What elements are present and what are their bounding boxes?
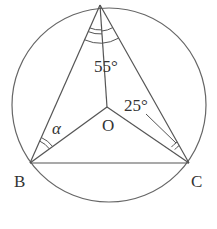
segment-ao [100,5,107,107]
apex-angle-label: 55° [94,57,118,76]
apex-full-arc [85,38,119,43]
alpha-arc-outer [41,138,52,147]
side-ac [100,5,189,163]
side-ab [30,5,100,163]
alpha-arc-inner [40,141,50,149]
angle-c-leader [146,114,176,143]
apex-double-arc-inner [90,28,102,30]
angle-c-arc-outer [171,142,177,147]
angle-c-arc-inner [175,146,179,150]
geometry-diagram: 55° 25° α O B C [0,0,217,229]
angle-c-label: 25° [124,96,148,115]
apex-double-arc-outer [88,32,102,34]
alpha-label: α [52,119,62,138]
point-o-label: O [102,116,114,135]
point-b-label: B [14,172,25,191]
apex-right-arc [102,28,113,31]
circumcircle [12,8,206,202]
segment-bo [30,107,107,163]
point-c-label: C [191,172,202,191]
